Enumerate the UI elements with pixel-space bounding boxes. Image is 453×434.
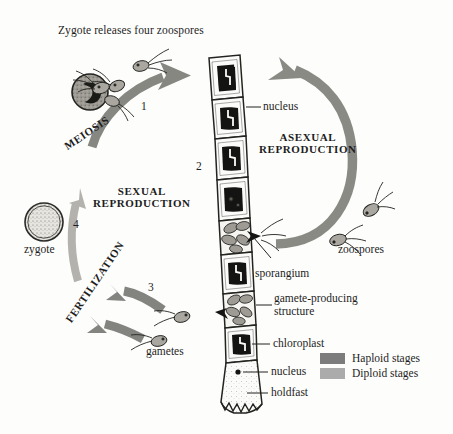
filament-cell-2 [212,97,246,139]
label-chloroplast: chloroplast [273,337,324,350]
label-gamete-producing-structure: gamete-producing structure [274,292,358,318]
legend: Haploid stages Diploid stages [320,352,420,379]
legend-swatch-diploid [320,368,345,379]
arrow-step-4 [69,188,86,281]
holdfast-cell [221,360,262,413]
nucleus-dot [235,369,240,374]
legend-swatch-haploid [320,353,345,364]
step-number-2: 2 [196,160,202,173]
arrow-step-3-upper [106,284,163,310]
sporangium-cell [219,218,286,255]
filament-cell-3 [215,136,248,180]
gamete-producing-cell [215,291,256,328]
asexual-reproduction-label: ASEXUAL REPRODUCTION [259,131,357,156]
label-sporangium: sporangium [255,267,309,280]
zygote-releasing-zoospores [72,49,172,121]
label-gametes: gametes [146,345,184,358]
diagram-title: Zygote releases four zoospores [58,24,204,37]
zygote-cell [25,203,63,241]
label-nucleus-top: nucleus [263,100,298,113]
filament-cell-4 [217,177,250,221]
label-holdfast: holdfast [271,386,308,399]
filament-cell-6 [221,252,254,294]
label-zoospores: zoospores [338,243,384,256]
step-number-4: 4 [73,218,79,231]
filament-cell-1 [209,55,243,100]
legend-label-haploid: Haploid stages [352,352,420,364]
sexual-reproduction-label: SEXUAL REPRODUCTION [93,185,191,210]
label-zygote: zygote [24,243,55,256]
legend-item-diploid: Diploid stages [320,367,420,379]
legend-item-haploid: Haploid stages [320,352,420,364]
step-number-3: 3 [148,281,154,294]
label-nucleus-bottom: nucleus [271,365,306,378]
gametes-cells [131,310,191,350]
legend-label-diploid: Diploid stages [352,367,418,379]
arrow-step-3-lower [87,316,143,339]
step-number-1: 1 [141,100,147,113]
life-cycle-diagram: Zygote releases four zoospores 1 2 3 4 M… [0,0,453,434]
